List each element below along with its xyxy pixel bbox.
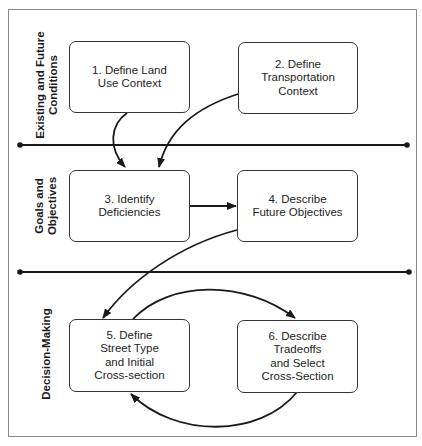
step-5-define-street-type: 5. Define Street Type and Initial Cross-… xyxy=(69,319,190,392)
arrow-6-to-5 xyxy=(131,392,297,427)
step-1-define-land-use-context: 1. Define Land Use Context xyxy=(69,41,190,113)
section-label-goals-objectives: Goals and Objectives xyxy=(33,167,61,245)
arrow-1-to-3 xyxy=(113,113,127,167)
step-3-identify-deficiencies: 3. Identify Deficiencies xyxy=(69,170,190,242)
section-label-decision-making: Decision-Making xyxy=(40,304,54,404)
section-divider-1 xyxy=(17,142,410,148)
arrow-5-to-6 xyxy=(133,290,295,319)
step-2-define-transportation-context: 2. Define Transportation Context xyxy=(238,42,358,114)
step-4-describe-future-objectives: 4. Describe Future Objectives xyxy=(237,170,358,242)
section-label-existing-conditions: Existing and Future Conditions xyxy=(34,25,62,145)
arrow-4-to-5 xyxy=(103,230,237,318)
step-6-describe-tradeoffs: 6. Describe Tradeoffs and Select Cross-S… xyxy=(237,320,358,393)
connectors-layer xyxy=(0,0,422,446)
section-divider-2 xyxy=(17,269,412,275)
